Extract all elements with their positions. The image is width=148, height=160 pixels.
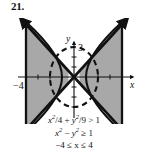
problem-number: 21. <box>11 0 24 12</box>
inequality-line-1: x2/4 + y2/9 > 1 <box>0 114 148 127</box>
inequality-line-3: −4 ≤ x ≤ 4 <box>0 139 148 152</box>
y-axis-label: y <box>65 34 71 44</box>
inequality-line-2: x2 − y2 ≥ 1 <box>0 127 148 140</box>
x-tick-label-neg4: −4 <box>13 80 24 91</box>
x-axis-label: x <box>129 80 135 90</box>
figure-container: 21. <box>0 0 148 160</box>
graph-plot: 3 −4 y x <box>0 18 148 124</box>
inequality-system: x2/4 + y2/9 > 1 x2 − y2 ≥ 1 −4 ≤ x ≤ 4 <box>0 114 148 152</box>
y-tick-label-3: 3 <box>78 42 83 53</box>
